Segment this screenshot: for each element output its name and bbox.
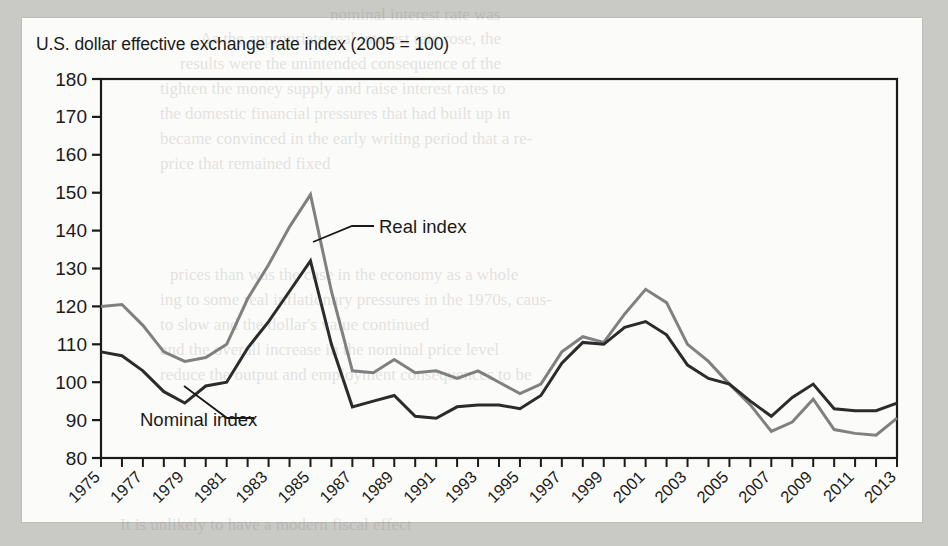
svg-text:1981: 1981 <box>190 467 229 506</box>
svg-text:1985: 1985 <box>274 467 313 506</box>
svg-text:110: 110 <box>57 334 87 355</box>
svg-text:180: 180 <box>55 69 87 90</box>
svg-text:150: 150 <box>55 182 87 203</box>
nominal-index-label: Nominal index <box>140 409 258 430</box>
svg-text:1987: 1987 <box>316 467 355 506</box>
chart-plot-area: 1801701601501401301201101009080 19751977… <box>22 18 922 522</box>
svg-text:140: 140 <box>55 220 87 241</box>
x-axis-ticks <box>101 458 897 467</box>
svg-text:2011: 2011 <box>819 467 857 505</box>
svg-text:1997: 1997 <box>525 467 564 506</box>
line-chart: 1801701601501401301201101009080 19751977… <box>22 18 922 522</box>
y-axis-ticks <box>92 79 101 458</box>
svg-text:80: 80 <box>66 448 87 469</box>
svg-text:90: 90 <box>66 410 87 431</box>
series-line-nominal-index <box>101 261 897 418</box>
svg-text:2013: 2013 <box>860 467 899 506</box>
svg-text:130: 130 <box>55 258 87 279</box>
svg-text:1977: 1977 <box>106 467 145 506</box>
svg-text:1999: 1999 <box>567 467 606 506</box>
svg-text:1993: 1993 <box>441 467 480 506</box>
svg-text:2007: 2007 <box>735 467 774 506</box>
y-axis-tick-labels: 1801701601501401301201101009080 <box>55 69 87 469</box>
figure-panel: U.S. dollar effective exchange rate inde… <box>22 18 922 522</box>
x-axis-tick-labels: 1975197719791981198319851987198919911993… <box>64 467 899 506</box>
data-series-group <box>101 195 897 436</box>
svg-text:1975: 1975 <box>64 467 103 506</box>
svg-text:2009: 2009 <box>777 467 816 506</box>
svg-text:120: 120 <box>55 296 87 317</box>
real-index-label: Real index <box>379 216 467 237</box>
svg-text:100: 100 <box>55 372 87 393</box>
svg-text:1995: 1995 <box>483 467 522 506</box>
svg-text:1979: 1979 <box>148 467 187 506</box>
svg-text:2003: 2003 <box>651 467 690 506</box>
svg-text:1991: 1991 <box>400 467 439 506</box>
svg-text:1983: 1983 <box>232 467 271 506</box>
svg-text:2005: 2005 <box>693 467 732 506</box>
svg-text:170: 170 <box>55 106 87 127</box>
svg-text:1989: 1989 <box>358 467 397 506</box>
series-line-real-index <box>101 195 897 436</box>
real-index-leader-line <box>313 226 374 242</box>
svg-text:160: 160 <box>55 144 87 165</box>
svg-text:2001: 2001 <box>609 467 648 506</box>
plot-frame <box>101 79 897 458</box>
